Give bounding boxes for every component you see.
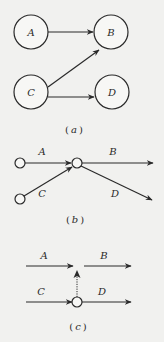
caption-a: (a) — [65, 124, 83, 135]
node-d: D — [95, 75, 129, 109]
node-a-label: A — [26, 27, 34, 38]
event-node-merge — [72, 158, 82, 168]
figure-c: A B C D (c) — [26, 250, 131, 332]
node-c-label: C — [27, 87, 35, 98]
arc-a-label: A — [39, 250, 47, 261]
node-d-label: D — [107, 87, 116, 98]
arc-d-label: D — [110, 188, 119, 199]
arc-a-label: A — [37, 146, 45, 157]
arc-c — [24, 167, 72, 196]
event-node-start-a — [15, 158, 25, 168]
caption-c: (c) — [69, 321, 87, 332]
figure-b: A B C D (b) — [15, 146, 153, 225]
event-node-start-c — [15, 194, 25, 204]
node-b-label: B — [106, 27, 114, 38]
arc-c-label: C — [38, 188, 46, 199]
arc-c-label: C — [37, 286, 45, 297]
node-a: A — [14, 15, 48, 49]
caption-b: (b) — [66, 214, 84, 225]
event-node-merge — [72, 297, 82, 307]
arc-d-label: D — [97, 286, 106, 297]
network-diagram: A B C D (a) A B C D (b) — [0, 0, 164, 342]
figure-a: A B C D (a) — [14, 15, 129, 135]
node-c: C — [14, 75, 48, 109]
arc-b-label: B — [99, 250, 107, 261]
edge-c-to-b — [48, 50, 99, 87]
arc-b-label: B — [108, 146, 116, 157]
node-b: B — [94, 15, 128, 49]
